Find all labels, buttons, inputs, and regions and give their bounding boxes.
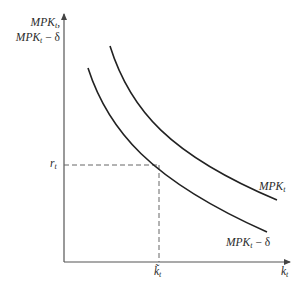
mpk-minus-delta-curve-label: MPKt − δ xyxy=(226,237,270,250)
y-tick-label-rt: rt xyxy=(50,158,57,171)
mpk-minus-delta-curve xyxy=(88,68,267,232)
x-tick-label-kt: k̃t xyxy=(154,266,161,279)
mpk-curve-label: MPKt xyxy=(259,181,286,194)
diagram-canvas: MPKt, MPKt − δ rt k̃t kt MPKt MPKt − δ xyxy=(0,0,303,287)
y-axis-label-line1: MPKt, xyxy=(4,17,60,30)
mpk-curve xyxy=(110,46,277,200)
x-axis-label: kt xyxy=(281,266,288,279)
y-axis-label-line2: MPKt − δ xyxy=(0,32,60,45)
